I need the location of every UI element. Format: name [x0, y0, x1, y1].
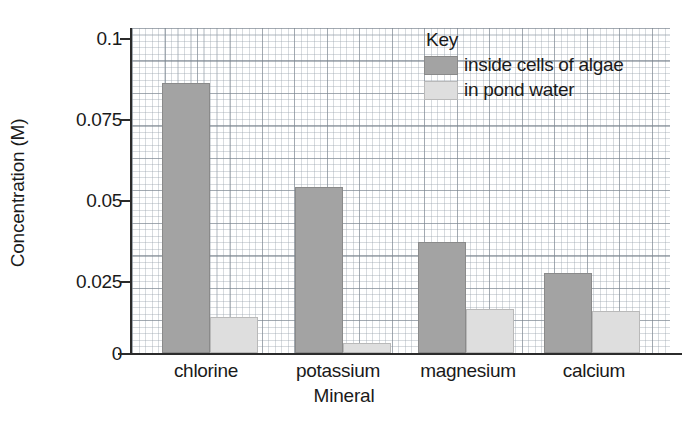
x-tick-label-potassium: potassium [272, 360, 404, 382]
y-axis-ticks: 0.1 0.075 0.05 0.025 0 [26, 0, 122, 431]
legend-swatch-icon-inside-cells-of-algae [424, 56, 458, 75]
bar-chlorine-in-pond-water [210, 317, 258, 353]
bar-chlorine-inside-cells-of-algae [162, 83, 210, 353]
x-tick-label-calcium: calcium [530, 360, 658, 382]
legend-title: Key [426, 30, 664, 50]
x-tick-label-chlorine: chlorine [140, 360, 272, 382]
bar-potassium-inside-cells-of-algae [295, 187, 343, 353]
legend: Key inside cells of algae in pond water [424, 30, 664, 103]
bar-magnesium-inside-cells-of-algae [418, 242, 466, 353]
bar-chart-figure: Concentration (M) 0.1 0.075 0.05 0.025 0… [0, 0, 688, 431]
y-tick-label-0.075: 0.075 [30, 110, 122, 129]
legend-label-in-pond-water: in pond water [464, 79, 574, 101]
legend-label-inside-cells-of-algae: inside cells of algae [464, 54, 624, 76]
y-tick-label-0.025: 0.025 [30, 272, 122, 291]
y-tick-mark-0.1 [120, 38, 130, 40]
y-tick-label-0.05: 0.05 [30, 191, 122, 210]
y-tick-mark-0.025 [120, 281, 130, 283]
legend-entry-in-pond-water: in pond water [424, 78, 664, 102]
y-tick-label-0.1: 0.1 [30, 29, 122, 48]
y-tick-mark-0.05 [120, 200, 130, 202]
x-axis-title: Mineral [0, 385, 688, 407]
bar-calcium-in-pond-water [592, 311, 640, 353]
x-tick-label-magnesium: magnesium [398, 360, 538, 382]
y-tick-label-0: 0 [30, 344, 122, 363]
legend-swatch-icon-in-pond-water [424, 81, 458, 100]
bar-calcium-inside-cells-of-algae [544, 273, 592, 353]
legend-entry-inside-cells-of-algae: inside cells of algae [424, 53, 664, 77]
x-axis-line [118, 353, 682, 355]
bar-potassium-in-pond-water [343, 343, 391, 353]
y-tick-mark-0.075 [120, 119, 130, 121]
bar-magnesium-in-pond-water [466, 309, 514, 353]
